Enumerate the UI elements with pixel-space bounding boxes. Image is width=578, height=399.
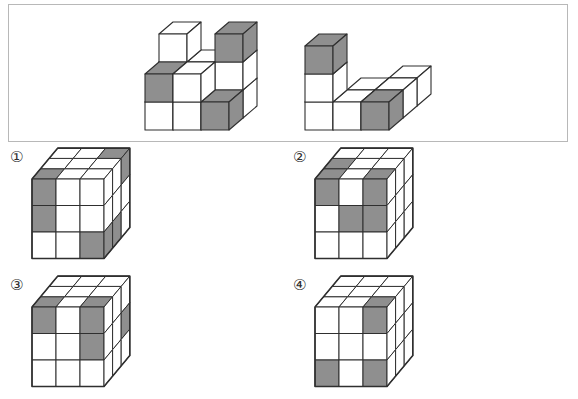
answer-option-3[interactable]: ③ bbox=[10, 274, 293, 396]
option-3-label: ③ bbox=[10, 276, 23, 294]
option-4-label: ④ bbox=[293, 276, 306, 294]
answer-option-4[interactable]: ④ bbox=[293, 274, 570, 396]
option-2-label: ② bbox=[293, 148, 306, 166]
block-piece-left-figure bbox=[142, 10, 264, 136]
answer-option-2[interactable]: ② bbox=[293, 146, 570, 268]
problem-figure-box bbox=[8, 4, 568, 142]
option-2-cube-figure bbox=[312, 146, 418, 268]
option-4-cube-figure bbox=[312, 274, 418, 396]
option-1-cube-figure bbox=[29, 146, 135, 268]
block-piece-right-figure bbox=[302, 10, 434, 136]
answer-option-1[interactable]: ① bbox=[10, 146, 293, 268]
option-1-label: ① bbox=[10, 148, 23, 166]
answer-options: ① ② ③ ④ bbox=[10, 146, 570, 396]
option-3-cube-figure bbox=[29, 274, 135, 396]
